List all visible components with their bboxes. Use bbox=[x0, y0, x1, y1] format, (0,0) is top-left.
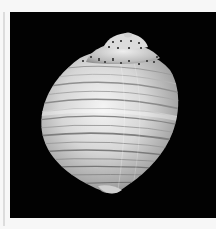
shell-photo bbox=[10, 12, 216, 218]
frame-edge bbox=[3, 12, 5, 226]
shell-illustration bbox=[10, 12, 216, 218]
